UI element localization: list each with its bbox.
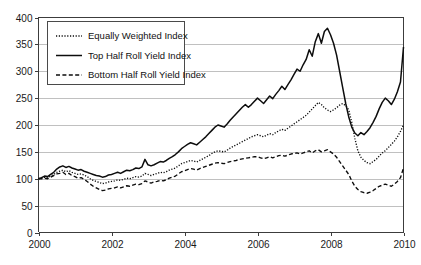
x-tick-label: 2006 bbox=[247, 239, 270, 250]
chart-legend: Equally Weighted IndexTop Half Roll Yiel… bbox=[48, 22, 207, 85]
x-tick-label: 2000 bbox=[28, 239, 51, 250]
line-chart: 050100150200250300350400 200020022004200… bbox=[0, 0, 421, 265]
y-tick-label: 400 bbox=[16, 13, 33, 24]
chart-figure: 050100150200250300350400 200020022004200… bbox=[0, 0, 421, 265]
y-axis-ticks: 050100150200250300350400 bbox=[16, 13, 39, 239]
y-tick-label: 250 bbox=[16, 93, 33, 104]
y-tick-label: 150 bbox=[16, 147, 33, 158]
y-tick-label: 300 bbox=[16, 66, 33, 77]
series-line-2 bbox=[39, 150, 404, 194]
x-tick-label: 2010 bbox=[393, 239, 416, 250]
x-axis-ticks: 200020022004200620082010 bbox=[28, 233, 416, 250]
legend-label: Equally Weighted Index bbox=[88, 30, 188, 41]
y-tick-label: 350 bbox=[16, 39, 33, 50]
y-tick-label: 200 bbox=[16, 120, 33, 131]
y-tick-label: 100 bbox=[16, 174, 33, 185]
legend-label: Bottom Half Roll Yield Index bbox=[88, 69, 206, 80]
legend-label: Top Half Roll Yield Index bbox=[88, 50, 191, 61]
x-tick-label: 2008 bbox=[320, 239, 343, 250]
x-tick-label: 2004 bbox=[174, 239, 197, 250]
x-tick-label: 2002 bbox=[101, 239, 124, 250]
y-tick-label: 50 bbox=[21, 201, 33, 212]
y-tick-label: 0 bbox=[27, 228, 33, 239]
